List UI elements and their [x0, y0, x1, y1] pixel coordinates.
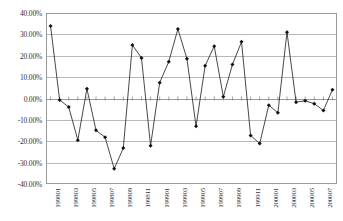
data-point-marker [330, 88, 334, 92]
data-point-marker [203, 64, 207, 68]
data-series-layer [0, 0, 343, 221]
data-point-marker [294, 100, 298, 104]
series-markers [49, 24, 335, 171]
data-point-marker [212, 44, 216, 48]
data-point-marker [230, 63, 234, 67]
data-point-marker [49, 24, 53, 28]
data-point-marker [240, 40, 244, 44]
x-tick-marks [51, 97, 333, 101]
data-point-marker [194, 124, 198, 128]
data-point-marker [285, 30, 289, 34]
data-point-marker [158, 81, 162, 85]
data-point-marker [303, 99, 307, 103]
data-point-marker [176, 27, 180, 31]
data-point-marker [121, 146, 125, 150]
series-line [51, 26, 333, 169]
data-point-marker [185, 57, 189, 61]
data-point-marker [76, 138, 80, 142]
data-point-marker [149, 144, 153, 148]
data-point-marker [167, 60, 171, 64]
chart-container: 40.00%30.00%20.00%10.00%0.00%-10.00%-20.… [0, 0, 343, 221]
data-point-marker [112, 167, 116, 171]
data-point-marker [85, 87, 89, 91]
data-point-marker [221, 95, 225, 99]
